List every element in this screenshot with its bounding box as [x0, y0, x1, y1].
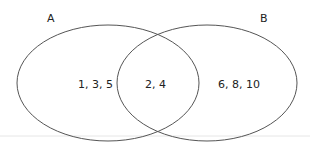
set-b-label: B — [260, 12, 268, 25]
set-b-only-elements: 6, 8, 10 — [218, 78, 260, 91]
set-a-only-elements: 1, 3, 5 — [78, 78, 113, 91]
venn-diagram: A B 1, 3, 5 2, 4 6, 8, 10 — [0, 0, 310, 147]
set-a-label: A — [47, 12, 55, 25]
set-b-ellipse — [117, 25, 297, 141]
venn-svg: A B 1, 3, 5 2, 4 6, 8, 10 — [0, 0, 310, 147]
intersection-elements: 2, 4 — [145, 78, 166, 91]
